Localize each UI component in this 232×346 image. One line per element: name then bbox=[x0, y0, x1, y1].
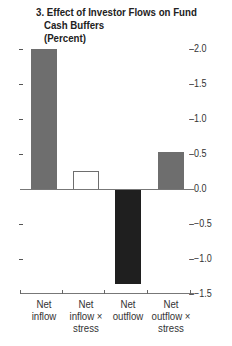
bar-net-inflow-stress bbox=[73, 171, 99, 189]
x-tick-mark bbox=[190, 290, 191, 294]
y-tick-label: –−0.5 bbox=[189, 218, 212, 229]
x-tick-mark bbox=[62, 290, 63, 294]
y-tick-label: –1.5 bbox=[189, 78, 207, 89]
x-label: Netinflow bbox=[24, 298, 64, 322]
title-line-2: Cash Buffers bbox=[36, 19, 197, 32]
left-tick-mark bbox=[19, 84, 23, 85]
left-tick-mark bbox=[19, 49, 23, 50]
bar-net-outflow bbox=[115, 190, 141, 284]
bar-net-inflow bbox=[31, 49, 57, 189]
x-label: Netinflow ×stress bbox=[66, 298, 106, 334]
y-tick-label: –1.0 bbox=[189, 113, 207, 124]
y-tick-label: –2.0 bbox=[189, 43, 207, 54]
title-line-1: 3. Effect of Investor Flows on Fund bbox=[36, 6, 197, 18]
y-tick-label: –−1.0 bbox=[189, 253, 212, 264]
zero-line bbox=[20, 189, 194, 190]
x-tick-mark bbox=[147, 290, 148, 294]
left-tick-mark bbox=[19, 119, 23, 120]
x-tick-mark bbox=[104, 290, 105, 294]
chart-title: 3. Effect of Investor Flows on Fund Cash… bbox=[36, 6, 197, 45]
title-line-3: (Percent) bbox=[36, 32, 197, 45]
x-tick-mark bbox=[20, 290, 21, 294]
x-axis-line bbox=[20, 293, 194, 294]
bar-net-outflow-stress bbox=[158, 152, 184, 189]
left-tick-mark bbox=[19, 224, 23, 225]
x-label: Netoutflow bbox=[108, 298, 148, 322]
left-tick-mark bbox=[19, 154, 23, 155]
x-label: Netoutflow ×stress bbox=[151, 298, 191, 334]
left-tick-mark bbox=[19, 259, 23, 260]
y-tick-label: –0.5 bbox=[189, 148, 207, 159]
